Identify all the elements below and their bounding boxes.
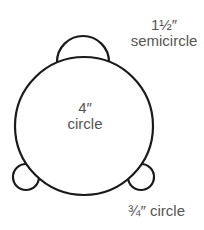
main-circle-label: 4″ circle: [60, 100, 110, 132]
main-circle-name: circle: [60, 116, 110, 132]
small-circle-label: ¾″ circle: [128, 203, 204, 219]
semicircle-label: 1½″ semicircle: [124, 17, 204, 49]
semicircle-name: semicircle: [124, 33, 204, 49]
semicircle-size: 1½″: [124, 17, 204, 33]
main-circle-size: 4″: [60, 100, 110, 116]
